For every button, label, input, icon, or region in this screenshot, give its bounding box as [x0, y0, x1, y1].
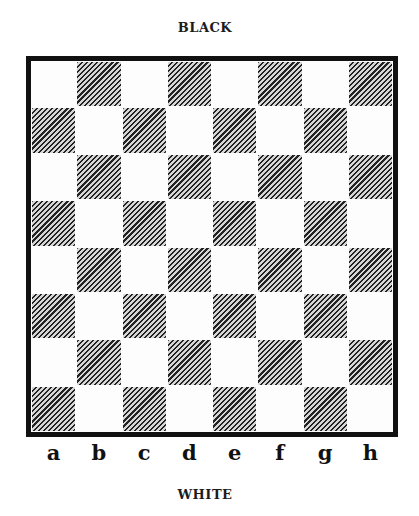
square-h8	[348, 61, 393, 107]
square-h7	[348, 107, 393, 153]
file-label-b: b	[76, 440, 121, 465]
chessboard-grid	[31, 61, 393, 432]
square-d8	[167, 61, 212, 107]
square-h4	[348, 247, 393, 293]
square-f6	[257, 154, 302, 200]
square-f7	[257, 107, 302, 153]
white-side-label: WHITE	[0, 487, 410, 502]
square-a1	[31, 386, 76, 432]
file-label-d: d	[167, 440, 212, 465]
square-g1	[303, 386, 348, 432]
file-label-e: e	[212, 440, 257, 465]
square-g7	[303, 107, 348, 153]
square-c8	[122, 61, 167, 107]
square-b4	[76, 247, 121, 293]
square-f3	[257, 293, 302, 339]
square-c6	[122, 154, 167, 200]
square-a8	[31, 61, 76, 107]
square-h5	[348, 200, 393, 246]
square-b7	[76, 107, 121, 153]
square-h6	[348, 154, 393, 200]
square-a7	[31, 107, 76, 153]
square-d7	[167, 107, 212, 153]
chessboard	[26, 56, 398, 437]
square-c1	[122, 386, 167, 432]
square-e6	[212, 154, 257, 200]
square-e2	[212, 339, 257, 385]
square-f2	[257, 339, 302, 385]
square-d1	[167, 386, 212, 432]
square-c2	[122, 339, 167, 385]
file-label-f: f	[257, 440, 302, 465]
file-label-g: g	[303, 440, 348, 465]
square-f5	[257, 200, 302, 246]
square-e7	[212, 107, 257, 153]
square-h1	[348, 386, 393, 432]
square-d4	[167, 247, 212, 293]
square-b8	[76, 61, 121, 107]
square-a3	[31, 293, 76, 339]
square-h3	[348, 293, 393, 339]
square-g2	[303, 339, 348, 385]
square-g6	[303, 154, 348, 200]
square-f1	[257, 386, 302, 432]
square-f4	[257, 247, 302, 293]
square-b2	[76, 339, 121, 385]
square-e3	[212, 293, 257, 339]
square-a2	[31, 339, 76, 385]
square-g3	[303, 293, 348, 339]
square-e4	[212, 247, 257, 293]
square-g4	[303, 247, 348, 293]
square-d2	[167, 339, 212, 385]
square-g5	[303, 200, 348, 246]
square-c5	[122, 200, 167, 246]
file-labels: abcdefgh	[31, 440, 393, 465]
square-e8	[212, 61, 257, 107]
square-c3	[122, 293, 167, 339]
square-f8	[257, 61, 302, 107]
file-label-c: c	[122, 440, 167, 465]
square-a4	[31, 247, 76, 293]
square-g8	[303, 61, 348, 107]
square-a5	[31, 200, 76, 246]
square-b6	[76, 154, 121, 200]
square-b3	[76, 293, 121, 339]
square-a6	[31, 154, 76, 200]
square-d3	[167, 293, 212, 339]
square-b1	[76, 386, 121, 432]
file-label-a: a	[31, 440, 76, 465]
square-e1	[212, 386, 257, 432]
square-c7	[122, 107, 167, 153]
square-h2	[348, 339, 393, 385]
square-d5	[167, 200, 212, 246]
square-e5	[212, 200, 257, 246]
square-b5	[76, 200, 121, 246]
file-label-h: h	[348, 440, 393, 465]
square-d6	[167, 154, 212, 200]
square-c4	[122, 247, 167, 293]
black-side-label: BLACK	[0, 20, 410, 35]
